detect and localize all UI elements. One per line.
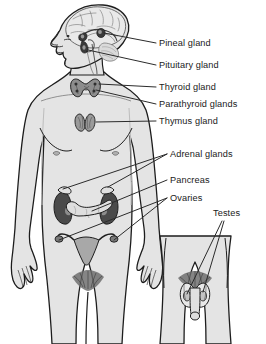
label-pancreas: Pancreas bbox=[170, 175, 210, 185]
label-adrenal-glands: Adrenal glands bbox=[170, 149, 233, 159]
eye bbox=[67, 35, 70, 37]
endocrine-system-diagram: Pineal gland Pituitary gland Thyroid gla… bbox=[0, 0, 266, 344]
diagram-canvas: Pineal gland Pituitary gland Thyroid gla… bbox=[0, 0, 266, 344]
label-thyroid-gland: Thyroid gland bbox=[159, 82, 216, 92]
label-pineal-gland: Pineal gland bbox=[159, 38, 211, 48]
label-testes: Testes bbox=[213, 208, 240, 218]
label-ovaries: Ovaries bbox=[170, 193, 203, 203]
label-parathyroid-glands: Parathyroid glands bbox=[159, 99, 238, 109]
glans bbox=[190, 312, 199, 320]
label-thymus-gland: Thymus gland bbox=[159, 116, 218, 126]
label-pituitary-gland: Pituitary gland bbox=[159, 60, 219, 70]
